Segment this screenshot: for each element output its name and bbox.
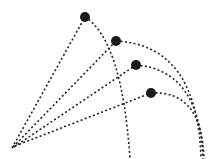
- launch-line-2: [13, 41, 116, 147]
- falling-arc-2: [116, 41, 201, 159]
- launch-line-4: [15, 93, 151, 146]
- ball-2-icon: [111, 36, 121, 46]
- ball-4-icon: [146, 88, 156, 98]
- ball-3-icon: [131, 60, 141, 70]
- trajectory-diagram: [0, 0, 214, 159]
- launch-line-1: [12, 17, 85, 148]
- falling-arc-1: [85, 17, 130, 159]
- falling-arc-4: [151, 93, 204, 159]
- launch-lines: [12, 17, 151, 148]
- balls: [80, 12, 156, 98]
- ball-1-icon: [80, 12, 90, 22]
